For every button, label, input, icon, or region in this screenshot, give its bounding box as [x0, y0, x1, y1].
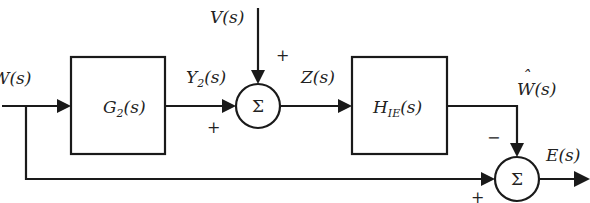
g2-block: [71, 57, 165, 154]
v-label: V(s): [210, 7, 244, 27]
w-hat-line: [447, 106, 517, 148]
arrowhead-sum1-left: [222, 99, 236, 113]
sum2-top-sign: −: [487, 128, 500, 147]
e-label: E(s): [545, 145, 580, 165]
arrowhead-hie-in: [338, 99, 352, 113]
w-label: W(s): [0, 68, 31, 88]
arrowhead-g2-in: [57, 99, 71, 113]
sum2-left-sign: +: [471, 188, 484, 203]
arrowhead-sum1-top: [251, 70, 265, 84]
sum2-symbol: Σ: [511, 169, 523, 189]
arrowhead-output: [574, 171, 590, 187]
block-diagram: G2(s) Y2(s) + V(s) + Σ Z(s) HIE(s) W(s) …: [0, 0, 590, 203]
w-hat-hat: ˆ: [522, 66, 531, 86]
sum1-left-sign: +: [207, 118, 220, 137]
arrowhead-sum2-top: [510, 143, 524, 157]
sum1-symbol: Σ: [252, 96, 264, 116]
g2-label: G2(s): [103, 97, 146, 120]
y2-label: Y2(s): [186, 67, 226, 90]
sum1-top-sign: +: [276, 46, 289, 65]
arrowhead-sum2-left: [481, 172, 495, 186]
z-label: Z(s): [300, 67, 335, 87]
